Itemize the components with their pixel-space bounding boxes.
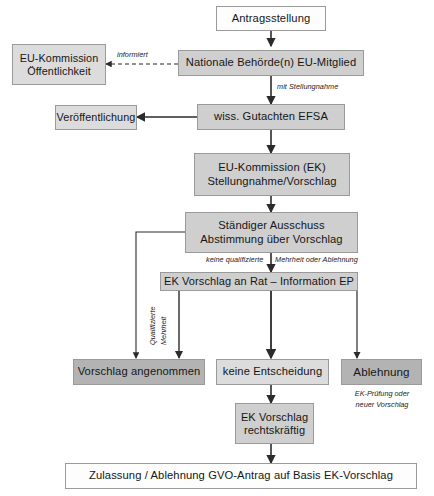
node-veroeffentlichung[interactable]: Veröffentlichung xyxy=(55,105,137,130)
note-ablehnung-line2: neuer Vorschlag xyxy=(336,400,428,411)
node-staendiger-ausschuss-line1: Ständiger Ausschuss xyxy=(218,219,324,232)
node-keine-entscheidung[interactable]: keine Entscheidung xyxy=(216,359,329,385)
node-antragsstellung[interactable]: Antragsstellung xyxy=(216,6,326,31)
edge-label-mehrheit-oder-ablehnung: Mehrheit oder Ablehnung xyxy=(275,255,358,264)
node-eu-kommission-oeffentlichkeit-line1: EU-Kommission xyxy=(20,52,99,65)
node-zulassung-ablehnung[interactable]: Zulassung / Ablehnung GVO-Antrag auf Bas… xyxy=(65,463,417,489)
edge-label-mit-stellungnahme: mit Stellungnahme xyxy=(277,82,338,91)
node-ablehnung-label: Ablehnung xyxy=(353,365,409,379)
node-vorschlag-angenommen-label: Vorschlag angenommen xyxy=(78,365,201,378)
node-ek-vorschlag-rat-label: EK Vorschlag an Rat – Information EP xyxy=(164,275,354,288)
node-eu-kommission-oeffentlichkeit[interactable]: EU-Kommission Öffentlichkeit xyxy=(12,44,106,85)
node-vorschlag-angenommen[interactable]: Vorschlag angenommen xyxy=(73,359,205,385)
edge-label-keine-qualifizierte: keine qualifizierte xyxy=(206,255,263,264)
node-eu-kommission-ek-line2: Stellungnahme/Vorschlag xyxy=(207,175,336,188)
node-antragsstellung-label: Antragsstellung xyxy=(232,12,311,25)
edge-label-informiert: informiert xyxy=(117,50,148,59)
edge-label-qualifizierte: Qualifizierte xyxy=(148,306,157,345)
node-ek-vorschlag-rechtskraeftig-line1: EK Vorschlag xyxy=(241,411,308,424)
node-eu-kommission-ek-line1: EU-Kommission (EK) xyxy=(218,161,325,174)
node-keine-entscheidung-label: keine Entscheidung xyxy=(223,365,322,378)
node-ek-vorschlag-rechtskraeftig-line2: rechtskräftig xyxy=(244,424,305,437)
node-staendiger-ausschuss[interactable]: Ständiger Ausschuss Abstimmung über Vors… xyxy=(185,212,358,253)
node-zulassung-ablehnung-label: Zulassung / Ablehnung GVO-Antrag auf Bas… xyxy=(89,469,393,482)
node-nationale-behoerde[interactable]: Nationale Behörde(n) EU-Mitglied xyxy=(178,50,364,76)
node-wiss-gutachten-efsa[interactable]: wiss. Gutachten EFSA xyxy=(197,104,345,130)
node-veroeffentlichung-label: Veröffentlichung xyxy=(57,111,136,124)
node-ek-vorschlag-rat[interactable]: EK Vorschlag an Rat – Information EP xyxy=(160,272,358,291)
edge-label-mehrheit: Mehrheit xyxy=(159,317,168,345)
node-eu-kommission-oeffentlichkeit-line2: Öffentlichkeit xyxy=(27,65,91,78)
node-staendiger-ausschuss-line2: Abstimmung über Vorschlag xyxy=(200,233,342,246)
note-ablehnung-line1: EK-Prüfung oder xyxy=(336,389,428,400)
node-wiss-gutachten-efsa-label: wiss. Gutachten EFSA xyxy=(214,110,328,123)
note-ablehnung: EK-Prüfung oder neuer Vorschlag xyxy=(336,389,428,410)
flowchart-canvas: Antragsstellung EU-Kommission Öffentlich… xyxy=(0,0,434,496)
node-nationale-behoerde-label: Nationale Behörde(n) EU-Mitglied xyxy=(186,56,356,69)
node-eu-kommission-ek[interactable]: EU-Kommission (EK) Stellungnahme/Vorschl… xyxy=(194,153,350,196)
node-ablehnung[interactable]: Ablehnung xyxy=(341,359,422,385)
node-ek-vorschlag-rechtskraeftig[interactable]: EK Vorschlag rechtskräftig xyxy=(235,403,314,444)
